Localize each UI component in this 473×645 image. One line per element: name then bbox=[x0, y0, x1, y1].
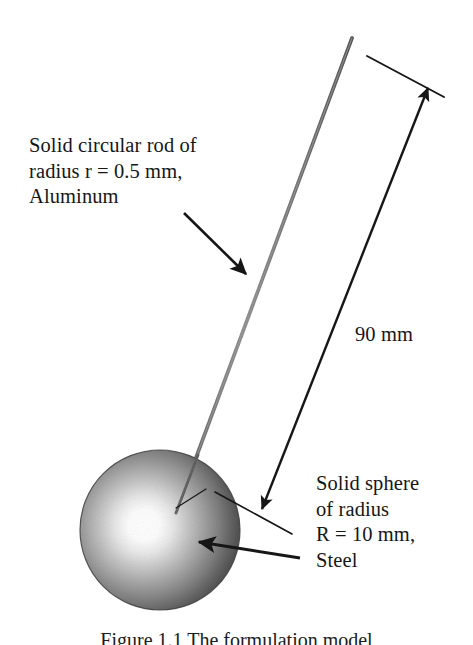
label-dimension-90mm: 90 mm bbox=[355, 322, 413, 348]
label-sphere-line-1: Solid sphere bbox=[316, 472, 419, 494]
label-sphere: Solid sphereof radiusR = 10 mm,Steel bbox=[316, 471, 419, 573]
dimension-arrow-shaft bbox=[262, 88, 428, 509]
label-rod-line-2: radius r = 0.5 mm, bbox=[29, 160, 182, 182]
dimension-line-90mm bbox=[215, 56, 444, 534]
label-rod-line-3: Aluminum bbox=[29, 185, 119, 207]
figure-caption: Figure 1.1 The formulation model bbox=[0, 628, 473, 645]
label-sphere-line-4: Steel bbox=[316, 549, 358, 571]
extension-line-top bbox=[367, 56, 444, 97]
steel-sphere bbox=[80, 450, 240, 610]
label-rod: Solid circular rod ofradius r = 0.5 mm,A… bbox=[29, 133, 197, 210]
aluminum-rod bbox=[181, 38, 352, 498]
figure-canvas: Solid circular rod ofradius r = 0.5 mm,A… bbox=[0, 0, 473, 645]
leader-arrow-rod bbox=[184, 213, 246, 274]
label-sphere-line-3: R = 10 mm, bbox=[316, 523, 415, 545]
label-rod-line-1: Solid circular rod of bbox=[29, 134, 197, 156]
label-sphere-line-2: of radius bbox=[316, 498, 389, 520]
